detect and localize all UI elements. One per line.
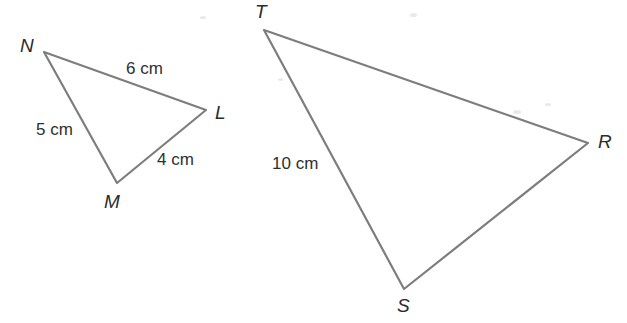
vertex-label-n: N — [20, 36, 34, 55]
vertex-label-m: M — [104, 192, 120, 211]
vertex-label-s: S — [397, 296, 410, 315]
vertex-label-r: R — [598, 132, 612, 151]
vertex-label-l: L — [215, 103, 226, 122]
side-label-st: 10 cm — [272, 155, 318, 172]
side-label-mn: 5 cm — [36, 121, 73, 138]
vertex-label-t: T — [255, 2, 267, 21]
side-label-lm: 4 cm — [157, 151, 194, 168]
side-label-nl: 6 cm — [126, 60, 163, 77]
figure-canvas: N L M T R S 6 cm 5 cm 4 cm 10 cm — [0, 0, 627, 323]
